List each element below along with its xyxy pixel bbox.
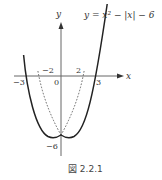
tick-label-pos2: 2 [76, 66, 81, 75]
y-axis-label: y [55, 9, 62, 19]
equation-label: y = x² − |x| − 6 [83, 10, 155, 21]
solid-curve [24, 4, 108, 138]
dotted-curve-right [61, 71, 84, 135]
graph-figure: y x y = x² − |x| − 6 −3 −2 0 2 3 −6 図 2.… [0, 0, 162, 180]
tick-label-neg2: −2 [42, 66, 54, 75]
x-axis-label: x [126, 71, 131, 81]
tick-label-neg6: −6 [46, 142, 58, 151]
origin-label: 0 [54, 78, 59, 87]
y-axis-arrow-icon [59, 22, 64, 29]
tick-label-neg3: −3 [13, 78, 25, 87]
tick-label-pos3: 3 [96, 78, 101, 87]
x-axis-arrow-icon [117, 74, 124, 79]
figure-caption: 図 2.2.1 [68, 164, 103, 174]
